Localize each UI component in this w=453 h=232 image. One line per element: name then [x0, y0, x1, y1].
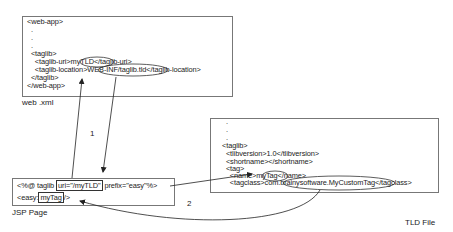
jsp-directive-end: prefix="easy"%>	[103, 181, 158, 190]
tld-line-8: <tagclass>com.brainysoftware.MyCustomTag…	[222, 179, 412, 187]
jsp-line-1: <%@ taglib uri="/myTLD" prefix="easy"%>	[17, 182, 157, 190]
web-xml-line-8: </web-app>	[27, 82, 65, 90]
jsp-page-caption: JSP Page	[12, 208, 47, 217]
jsp-tag-highlight: myTag	[38, 192, 63, 203]
web-xml-caption: web .xml	[22, 98, 54, 107]
arrow-label-2: 2	[187, 199, 191, 208]
tld-file-caption: TLD File	[405, 218, 435, 227]
jsp-tag-close: />	[64, 193, 70, 202]
jsp-uri-highlight: uri="/myTLD"	[56, 180, 102, 191]
jsp-tag-prefix: <easy:	[17, 193, 38, 202]
jsp-directive-start: <%@ taglib	[17, 181, 56, 190]
jsp-line-2: <easy:myTag/>	[17, 194, 70, 202]
arrow-label-1: 1	[90, 129, 94, 138]
